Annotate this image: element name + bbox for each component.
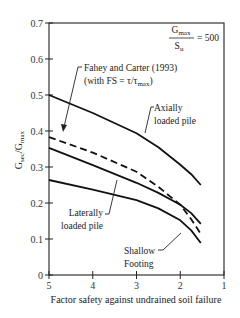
x-axis-title: Factor safety against undrained soil fai… — [51, 294, 222, 305]
y-tick-label: 0.1 — [31, 234, 44, 245]
y-tick-label: 0.2 — [31, 198, 44, 209]
y-tick-label: 0.7 — [31, 18, 44, 29]
svg-text:Footing: Footing — [124, 259, 154, 269]
svg-text:Gmax: Gmax — [172, 25, 191, 37]
svg-text:(with FS = τ/τmax): (with FS = τ/τmax) — [84, 76, 153, 88]
x-tick-label: 4 — [90, 280, 95, 291]
x-tick-label: 1 — [222, 280, 227, 291]
svg-text:Fahey and Carter (1993): Fahey and Carter (1993) — [84, 63, 177, 74]
y-tick-label: 0.3 — [31, 162, 44, 173]
plot-frame — [49, 23, 224, 275]
lateral-pile-label: Laterally loaded pile — [61, 180, 117, 231]
y-tick-label: 0.6 — [31, 54, 44, 65]
svg-text:Shallow: Shallow — [124, 246, 155, 256]
x-tick-label: 2 — [178, 280, 183, 291]
y-tick-label: 0 — [38, 270, 43, 281]
svg-text:Axially: Axially — [154, 103, 183, 113]
svg-text:Su: Su — [175, 41, 184, 53]
y-tick-label: 0.5 — [31, 90, 44, 101]
y-axis-title: Gsec/Gmax — [13, 130, 26, 169]
svg-text:loaded pile: loaded pile — [154, 116, 196, 126]
svg-text:loaded pile: loaded pile — [61, 221, 103, 231]
x-tick-label: 3 — [134, 280, 139, 291]
svg-text:= 500: = 500 — [197, 33, 219, 43]
shallow-footing-label: Shallow Footing — [124, 233, 181, 269]
axial-pile-label: Axially loaded pile — [145, 103, 196, 133]
y-tick-label: 0.4 — [31, 126, 44, 137]
x-axis-ticks: 54321 — [47, 271, 227, 291]
svg-text:Laterally: Laterally — [69, 208, 104, 218]
ratio-annotation: Gmax Su = 500 — [169, 25, 219, 53]
arrowhead-icon — [61, 124, 67, 132]
x-tick-label: 5 — [47, 280, 52, 291]
chart-figure: 00.10.20.30.40.50.60.7 54321 Gsec/Gmax F… — [0, 0, 240, 318]
